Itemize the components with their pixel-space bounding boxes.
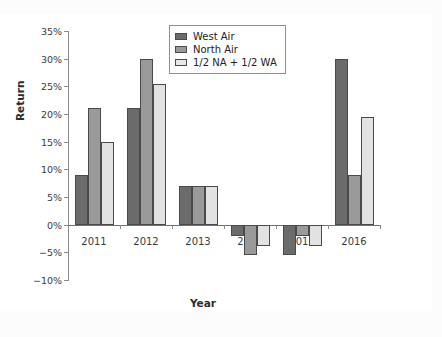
y-axis-title: Return: [14, 81, 26, 121]
legend-item-label: North Air: [193, 44, 238, 55]
y-axis-tick-label: 35%: [41, 26, 62, 37]
bar: [296, 225, 309, 236]
y-axis-tick-label: 0%: [47, 219, 62, 230]
legend-item: West Air: [175, 30, 277, 43]
y-axis-tick-label: 15%: [41, 136, 62, 147]
x-axis-tick-label: 2016: [341, 236, 366, 247]
bar: [257, 225, 270, 246]
legend-item-label: West Air: [193, 31, 235, 42]
x-axis-tick-label: 2011: [81, 236, 106, 247]
bar: [153, 84, 166, 225]
y-axis-tick: [64, 142, 69, 143]
bar: [348, 175, 361, 225]
bar: [335, 59, 348, 225]
x-axis-title: Year: [0, 297, 442, 309]
legend-swatch-icon: [175, 59, 187, 66]
bar: [231, 225, 244, 236]
y-axis-tick: [64, 280, 69, 281]
y-axis-tick: [64, 252, 69, 253]
bar: [192, 186, 205, 225]
bar: [127, 108, 140, 224]
legend-item-label: 1/2 NA + 1/2 WA: [193, 57, 277, 68]
x-axis-tick: [68, 225, 69, 229]
scan-band-right: [432, 0, 442, 337]
bar: [101, 142, 114, 225]
y-axis-tick-label: 5%: [47, 192, 62, 203]
x-axis-tick: [380, 225, 381, 229]
bar: [361, 117, 374, 225]
x-axis-tick: [276, 225, 277, 229]
bar: [140, 59, 153, 225]
x-axis-title-text: Year: [190, 297, 216, 309]
bar: [88, 108, 101, 224]
x-axis-tick: [172, 225, 173, 229]
x-axis-tick: [120, 225, 121, 229]
legend-item: North Air: [175, 43, 277, 56]
bar: [179, 186, 192, 225]
scan-band-bottom: [0, 311, 442, 337]
x-axis-tick: [328, 225, 329, 229]
x-axis-tick: [224, 225, 225, 229]
y-axis-tick-label: 20%: [41, 109, 62, 120]
y-axis-tick: [64, 86, 69, 87]
y-axis-spine: [68, 31, 69, 280]
legend-swatch-icon: [175, 33, 187, 40]
y-axis-tick: [64, 169, 69, 170]
bar: [244, 225, 257, 255]
y-axis-tick-label: −5%: [39, 247, 62, 258]
bar: [75, 175, 88, 225]
bar: [309, 225, 322, 246]
y-axis-tick: [64, 59, 69, 60]
y-axis-tick: [64, 114, 69, 115]
y-axis-tick-label: 30%: [41, 53, 62, 64]
x-axis-tick-label: 2013: [185, 236, 210, 247]
bar: [283, 225, 296, 255]
y-axis-tick: [64, 31, 69, 32]
chart-figure: Return 35%30%25%20%15%10%5%0%−5%−10% 201…: [0, 0, 442, 337]
legend-item: 1/2 NA + 1/2 WA: [175, 56, 277, 69]
chart-legend: West AirNorth Air1/2 NA + 1/2 WA: [169, 25, 286, 74]
bar: [205, 186, 218, 225]
legend-swatch-icon: [175, 46, 187, 53]
y-axis-tick-label: −10%: [33, 275, 62, 286]
y-axis-tick: [64, 197, 69, 198]
y-axis-tick-label: 10%: [41, 164, 62, 175]
x-axis-tick-label: 2012: [133, 236, 158, 247]
scan-band-top: [0, 0, 442, 14]
y-axis-tick-label: 25%: [41, 81, 62, 92]
